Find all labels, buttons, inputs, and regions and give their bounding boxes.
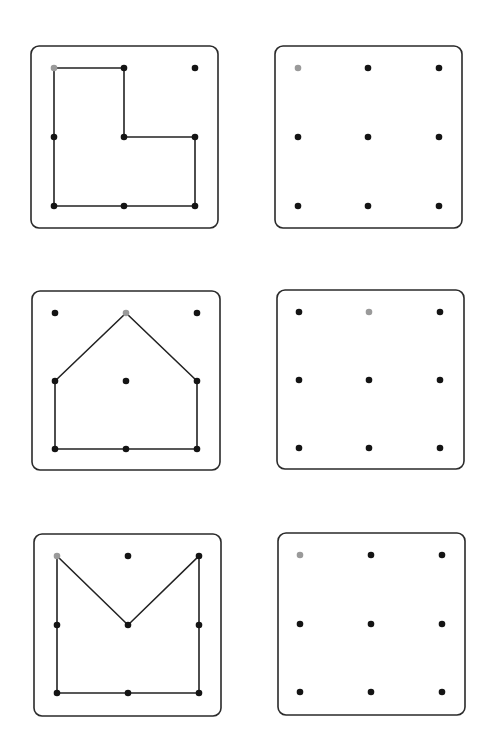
grid-dot	[125, 622, 132, 629]
grid-dot[interactable]	[437, 445, 444, 452]
practice-board-1[interactable]	[275, 46, 462, 228]
practice-board-3[interactable]	[278, 533, 465, 715]
grid-dot[interactable]	[295, 203, 302, 210]
grid-dot[interactable]	[439, 689, 446, 696]
grid-dot[interactable]	[368, 689, 375, 696]
grid-dot	[51, 134, 58, 141]
grid-dot[interactable]	[436, 203, 443, 210]
start-dot	[51, 65, 58, 72]
grid-dot	[121, 65, 128, 72]
grid-dot	[196, 553, 203, 560]
grid-dot[interactable]	[368, 552, 375, 559]
start-dot[interactable]	[366, 309, 373, 316]
grid-dot	[125, 553, 132, 560]
grid-dot	[121, 203, 128, 210]
example-board-1	[31, 46, 218, 228]
grid-dot	[196, 690, 203, 697]
start-dot	[123, 310, 130, 317]
grid-dot	[51, 203, 58, 210]
grid-dot[interactable]	[437, 377, 444, 384]
grid-dot[interactable]	[297, 621, 304, 628]
dot-grid-worksheet	[0, 0, 496, 748]
grid-dot[interactable]	[368, 621, 375, 628]
start-dot[interactable]	[295, 65, 302, 72]
grid-dot	[192, 134, 199, 141]
grid-dot	[54, 622, 61, 629]
grid-dot[interactable]	[295, 134, 302, 141]
grid-dot	[54, 690, 61, 697]
grid-dot	[52, 378, 59, 385]
grid-dot[interactable]	[436, 65, 443, 72]
grid-dot	[123, 378, 130, 385]
grid-dot	[125, 690, 132, 697]
grid-dot	[192, 65, 199, 72]
grid-dot	[194, 378, 201, 385]
grid-dot	[196, 622, 203, 629]
grid-dot	[52, 310, 59, 317]
example-board-3	[34, 534, 221, 716]
grid-dot	[194, 446, 201, 453]
start-dot	[54, 553, 61, 560]
grid-dot[interactable]	[366, 377, 373, 384]
grid-dot	[192, 203, 199, 210]
practice-board-2[interactable]	[277, 290, 464, 469]
example-board-2	[32, 291, 220, 470]
grid-dot[interactable]	[296, 309, 303, 316]
grid-dot[interactable]	[296, 377, 303, 384]
grid-dot[interactable]	[365, 203, 372, 210]
grid-dot[interactable]	[297, 689, 304, 696]
grid-dot[interactable]	[296, 445, 303, 452]
grid-dot[interactable]	[365, 134, 372, 141]
grid-dot[interactable]	[366, 445, 373, 452]
grid-dot	[123, 446, 130, 453]
grid-dot	[121, 134, 128, 141]
start-dot[interactable]	[297, 552, 304, 559]
grid-dot[interactable]	[439, 552, 446, 559]
grid-dot[interactable]	[437, 309, 444, 316]
grid-dot[interactable]	[436, 134, 443, 141]
grid-dot[interactable]	[365, 65, 372, 72]
grid-dot[interactable]	[439, 621, 446, 628]
grid-dot	[194, 310, 201, 317]
grid-dot	[52, 446, 59, 453]
